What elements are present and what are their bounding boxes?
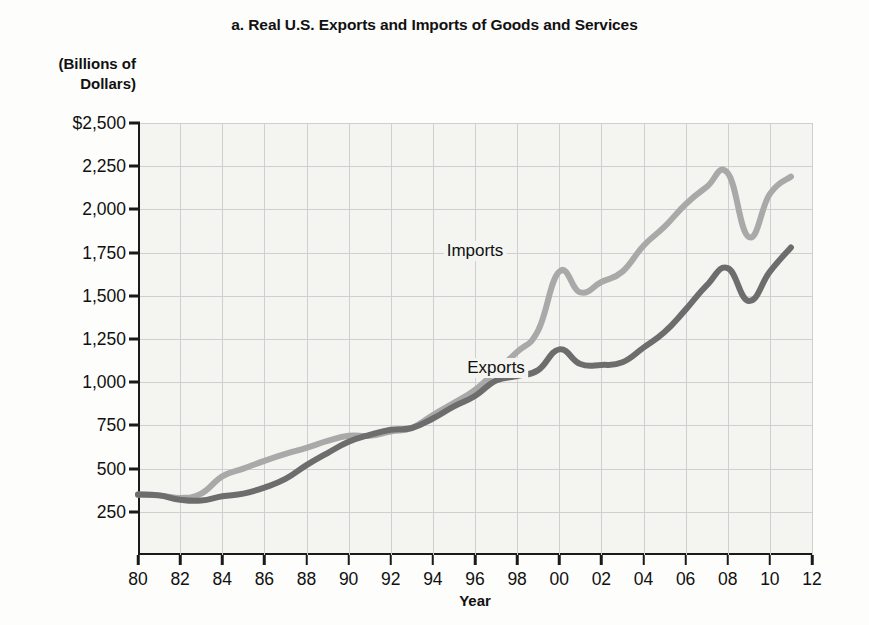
x-tick-label: 00 — [550, 569, 569, 590]
x-tick-label: 94 — [423, 569, 442, 590]
chart-container: a. Real U.S. Exports and Imports of Good… — [0, 0, 869, 625]
series-lines — [138, 123, 812, 555]
x-tick-mark — [642, 555, 645, 565]
x-tick-label: 82 — [170, 569, 189, 590]
gridline-vertical — [812, 123, 813, 555]
x-tick-mark — [263, 555, 266, 565]
series-line-imports — [138, 170, 791, 498]
x-tick-mark — [516, 555, 519, 565]
y-tick-mark — [129, 294, 140, 297]
y-tick-mark — [129, 208, 140, 211]
x-tick-mark — [137, 555, 140, 565]
x-tick-label: 90 — [339, 569, 358, 590]
y-tick-label: 1,500 — [8, 285, 126, 306]
x-tick-label: 84 — [213, 569, 232, 590]
y-tick-label: 1,750 — [8, 242, 126, 263]
x-tick-mark — [221, 555, 224, 565]
x-tick-label: 88 — [297, 569, 316, 590]
plot-area: ImportsExports — [138, 123, 812, 555]
y-axis-title-line1: (Billions of — [18, 54, 136, 74]
x-tick-mark — [347, 555, 350, 565]
x-tick-mark — [558, 555, 561, 565]
y-tick-mark — [129, 251, 140, 254]
x-tick-label: 08 — [718, 569, 737, 590]
y-tick-mark — [129, 381, 140, 384]
y-tick-mark — [129, 510, 140, 513]
y-axis-title: (Billions of Dollars) — [18, 54, 136, 94]
x-tick-mark — [305, 555, 308, 565]
y-tick-label: 1,000 — [8, 372, 126, 393]
y-tick-mark — [129, 467, 140, 470]
y-axis-title-line2: Dollars) — [18, 74, 136, 94]
y-tick-label: 750 — [8, 415, 126, 436]
x-tick-label: 80 — [128, 569, 147, 590]
y-tick-label: 250 — [8, 501, 126, 522]
y-tick-label: 1,250 — [8, 329, 126, 350]
x-tick-label: 10 — [760, 569, 779, 590]
x-tick-label: 98 — [507, 569, 526, 590]
x-tick-label: 02 — [592, 569, 611, 590]
y-tick-mark — [129, 338, 140, 341]
x-tick-mark — [811, 555, 814, 565]
x-tick-mark — [727, 555, 730, 565]
y-tick-label: $2,500 — [8, 113, 126, 134]
y-tick-label: 2,250 — [8, 156, 126, 177]
y-tick-label: 2,000 — [8, 199, 126, 220]
x-tick-mark — [769, 555, 772, 565]
x-tick-mark — [684, 555, 687, 565]
x-tick-label: 86 — [255, 569, 274, 590]
x-axis-title: Year — [138, 592, 812, 609]
x-tick-mark — [432, 555, 435, 565]
x-tick-label: 06 — [676, 569, 695, 590]
x-tick-mark — [179, 555, 182, 565]
y-tick-mark — [129, 122, 140, 125]
y-tick-mark — [129, 424, 140, 427]
x-tick-label: 96 — [465, 569, 484, 590]
series-label-exports: Exports — [464, 358, 528, 378]
y-tick-mark — [129, 165, 140, 168]
series-label-imports: Imports — [444, 241, 507, 261]
x-tick-label: 92 — [381, 569, 400, 590]
y-tick-label: 500 — [8, 458, 126, 479]
x-tick-mark — [390, 555, 393, 565]
x-tick-mark — [474, 555, 477, 565]
x-tick-label: 12 — [802, 569, 821, 590]
x-tick-label: 04 — [634, 569, 653, 590]
x-tick-mark — [600, 555, 603, 565]
chart-title: a. Real U.S. Exports and Imports of Good… — [0, 16, 869, 34]
